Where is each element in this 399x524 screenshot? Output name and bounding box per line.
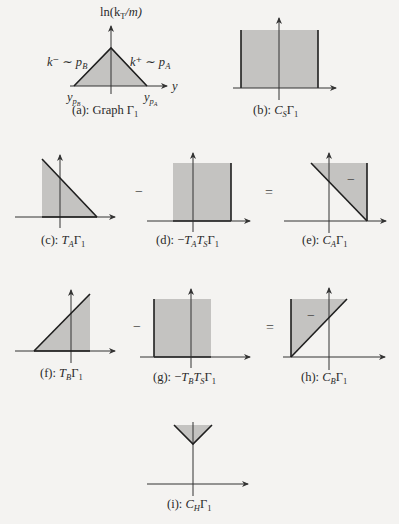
caption-f: (f): TBΓ1 — [40, 366, 83, 382]
rectangle-region — [154, 299, 211, 357]
operator-minus-row2: − — [135, 184, 143, 199]
panel-b: (b): CSΓ1 — [233, 18, 336, 119]
caption-g: (g): −TBTSΓ1 — [153, 370, 216, 386]
right-edge-label: k⁺ ∼ pA — [130, 55, 171, 71]
panel-f: (f): TBΓ1 — [15, 290, 115, 382]
caption-i: (i): CHΓ1 — [167, 497, 211, 513]
tick-label-ypa: ypA — [142, 90, 158, 107]
figure-canvas: ln(kT/m) y k⁻ ∼ pB k⁺ ∼ pA ypB ypA (a): … — [0, 0, 399, 524]
caption-a: (a): Graph Γ1 — [72, 103, 138, 119]
caption-e: (e): CAΓ1 — [302, 233, 348, 249]
panel-e: − (e): CAΓ1 — [284, 153, 386, 249]
caption-h: (h): CBΓ1 — [301, 370, 347, 386]
panel-c: (c): TAΓ1 — [15, 155, 115, 249]
rectangle-region — [173, 163, 231, 221]
caption-b: (b): CSΓ1 — [253, 103, 298, 119]
panel-a-graph: ln(kT/m) y k⁻ ∼ pB k⁺ ∼ pA ypB ypA (a): … — [47, 5, 178, 119]
y-axis-label: ln(kT/m) — [100, 5, 142, 21]
operator-equals-row2: = — [265, 185, 273, 200]
panel-d: (d): −TATSΓ1 — [147, 153, 250, 249]
left-edge-label: k⁻ ∼ pB — [47, 55, 87, 71]
caption-d: (d): −TATSΓ1 — [156, 233, 219, 249]
x-axis-label: y — [170, 79, 178, 93]
caption-c: (c): TAΓ1 — [41, 233, 85, 249]
panel-g: (g): −TBTSΓ1 — [140, 289, 250, 386]
panel-h: − (h): CBΓ1 — [283, 288, 385, 386]
region-sign: − — [347, 172, 355, 187]
panel-i: (i): CHΓ1 — [147, 422, 248, 513]
operator-minus-row3: − — [133, 319, 141, 334]
operator-equals-row3: = — [266, 320, 274, 335]
region-sign: − — [307, 308, 315, 323]
